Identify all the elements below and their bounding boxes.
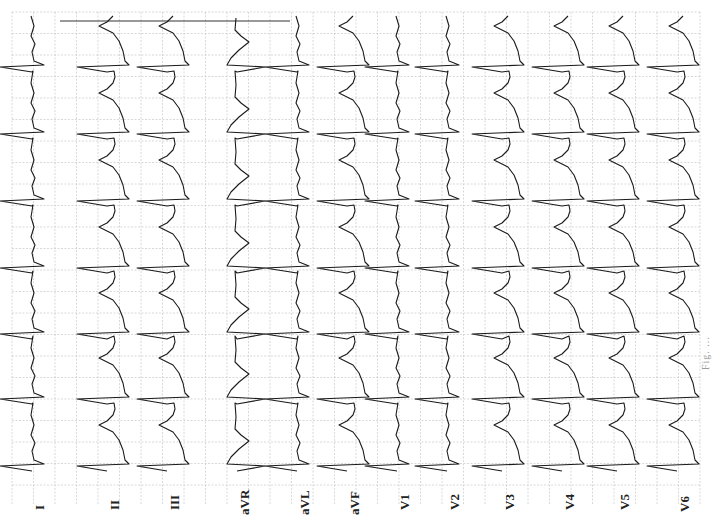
lead-label-v1: V1 bbox=[397, 494, 413, 510]
ecg-grid bbox=[12, 12, 700, 505]
ecg-tracing bbox=[0, 0, 720, 521]
trace-avr bbox=[227, 18, 265, 471]
trace-v2 bbox=[415, 16, 459, 471]
trace-v5 bbox=[587, 16, 639, 471]
ecg-traces bbox=[0, 16, 699, 471]
lead-label-avf: aVF bbox=[347, 491, 363, 515]
trace-ii bbox=[77, 16, 129, 471]
trace-v3 bbox=[472, 16, 524, 471]
lead-label-i: I bbox=[32, 505, 48, 510]
lead-label-v4: V4 bbox=[562, 494, 578, 510]
trace-i bbox=[0, 16, 44, 471]
lead-label-avr: aVR bbox=[237, 490, 253, 515]
trace-iii bbox=[137, 16, 189, 471]
lead-label-v3: V3 bbox=[502, 494, 518, 510]
lead-label-avl: aVL bbox=[297, 490, 313, 515]
lead-label-v5: V5 bbox=[617, 494, 633, 510]
trace-v6 bbox=[647, 16, 699, 471]
lead-label-iii: III bbox=[167, 495, 183, 510]
trace-v1 bbox=[365, 16, 409, 471]
lead-label-ii: II bbox=[107, 500, 123, 510]
trace-v4 bbox=[532, 16, 584, 471]
trace-avf bbox=[317, 16, 369, 471]
lead-label-v6: V6 bbox=[677, 496, 693, 512]
trace-avl bbox=[265, 16, 309, 471]
lead-label-v2: V2 bbox=[447, 494, 463, 510]
figure-caption: Fig. ... bbox=[700, 336, 711, 370]
